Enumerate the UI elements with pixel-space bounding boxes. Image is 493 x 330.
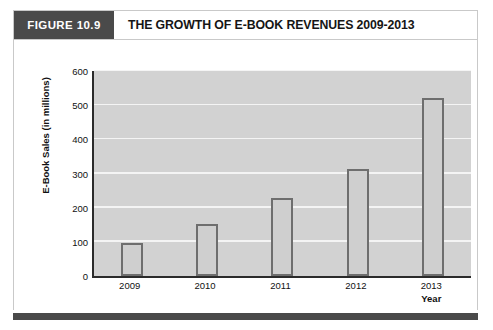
bar[interactable] [422, 98, 444, 276]
y-axis-tick-labels: 0100200300400500600 [54, 71, 88, 276]
y-tick-label: 200 [58, 202, 88, 213]
bar-slot [396, 71, 471, 276]
plot-area [92, 71, 471, 278]
bottom-rule [13, 313, 478, 320]
bar-slot [320, 71, 395, 276]
x-axis-title: Year [404, 293, 458, 304]
y-tick-label: 600 [58, 66, 88, 77]
y-tick-label: 500 [58, 100, 88, 111]
y-axis-title: E-Book Sales (in millions) [40, 61, 51, 211]
bar[interactable] [347, 169, 369, 276]
bar[interactable] [121, 243, 143, 276]
figure-header: FIGURE 10.9 THE GROWTH OF E-BOOK REVENUE… [14, 11, 477, 40]
bar[interactable] [196, 224, 218, 276]
x-tick-label: 2011 [270, 280, 290, 291]
y-tick-label: 0 [58, 271, 88, 282]
x-tick-label: 2013 [421, 280, 442, 291]
bar-slot [94, 71, 169, 276]
figure-number-tag: FIGURE 10.9 [14, 11, 114, 39]
bar[interactable] [271, 198, 293, 276]
x-tick-label: 2012 [345, 280, 366, 291]
figure-card: FIGURE 10.9 THE GROWTH OF E-BOOK REVENUE… [13, 10, 478, 310]
bars-layer [94, 71, 471, 276]
x-tick-label: 2010 [195, 280, 216, 291]
y-tick-label: 300 [58, 168, 88, 179]
chart-body: E-Book Sales (in millions) 0100200300400… [14, 40, 477, 311]
bar-slot [169, 71, 244, 276]
y-tick-label: 100 [58, 236, 88, 247]
bar-slot [245, 71, 320, 276]
x-tick-label: 2009 [119, 280, 140, 291]
figure-title: THE GROWTH OF E-BOOK REVENUES 2009-2013 [114, 11, 477, 39]
y-tick-label: 400 [58, 134, 88, 145]
